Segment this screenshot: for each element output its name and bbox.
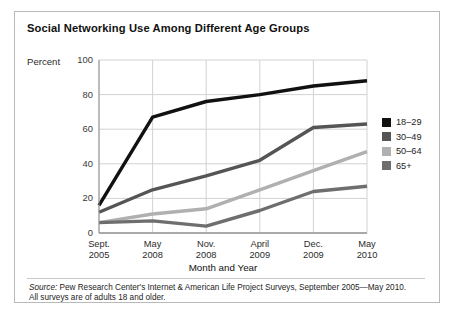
chart-figure: Social Networking Use Among Different Ag… [14,11,440,303]
x-tick-line1: April [250,239,269,249]
x-tick-line1: Nov. [197,239,215,249]
legend-item-50–64[interactable]: 50–64 [382,144,440,159]
x-tick-line1: Dec. [304,239,323,249]
legend-swatch-icon [382,161,391,170]
legend-label: 18–29 [396,117,422,127]
legend-swatch-icon [382,132,391,141]
x-tick-line2: 2009 [249,250,270,260]
x-tick-line1: Sept. [88,239,110,249]
x-tick-line2: 2008 [142,250,163,260]
y-tick-label: 0 [67,227,93,238]
y-tick-label: 60 [67,123,93,134]
y-tick-label: 40 [67,158,93,169]
source-note: Source: Pew Research Center's Internet &… [29,283,429,303]
x-tick-line2: 2008 [196,250,217,260]
x-tick-label: May2010 [334,239,400,262]
y-tick-label: 20 [67,192,93,203]
legend-item-18–29[interactable]: 18–29 [382,115,440,130]
series-line-65+ [99,186,367,226]
y-tick-label: 80 [67,89,93,100]
source-text: Pew Research Center's Internet & America… [57,283,406,292]
series-line-50–64 [99,152,367,223]
legend-label: 30–49 [396,132,422,142]
y-tick-label: 100 [67,54,93,65]
x-tick-line2: 2005 [89,250,110,260]
x-tick-line2: 2010 [357,250,378,260]
legend-swatch-icon [382,147,391,156]
legend-label: 50–64 [396,146,422,156]
plot-area: 020406080100 Sept.2005May2008Nov.2008Apr… [15,12,441,304]
source-prefix: Source: [29,283,57,292]
legend-item-65+[interactable]: 65+ [382,159,440,174]
legend: 18–2930–4950–6465+ [382,115,440,173]
series-line-18–29 [99,81,367,206]
x-axis-title: Month and Year [98,262,348,273]
x-tick-line2: 2009 [303,250,324,260]
legend-label: 65+ [396,161,412,171]
x-tick-line1: May [144,239,162,249]
x-tick-line1: May [358,239,376,249]
source-text-line2: All surveys are of adults 18 and older. [29,293,166,302]
legend-item-30–49[interactable]: 30–49 [382,130,440,145]
legend-swatch-icon [382,118,391,127]
divider [27,278,425,279]
series-lines [99,81,367,226]
